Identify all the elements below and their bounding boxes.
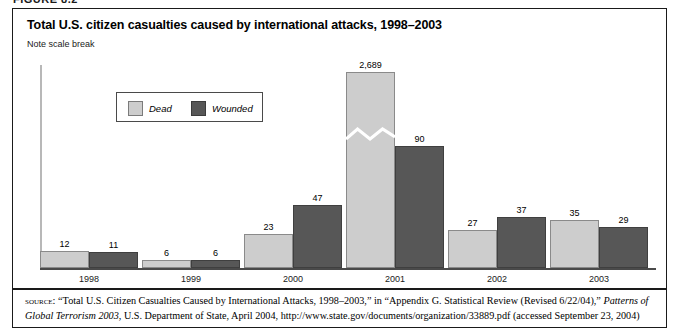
source-label: source: (25, 295, 56, 306)
bar-group-2001: 2,689 90 (346, 65, 444, 268)
source-italic-title-part1: Patterns of (603, 295, 648, 306)
x-axis-line (40, 268, 656, 270)
x-tick-2000: 2000 (244, 274, 342, 284)
bar-value-2003-dead: 35 (569, 208, 579, 218)
bar-value-2001-wounded: 90 (414, 134, 424, 144)
bar-2000-dead: 23 (244, 234, 293, 268)
bar-value-2000-dead: 23 (263, 222, 273, 232)
bar-1999-dead: 6 (142, 260, 191, 268)
bar-value-2001-dead: 2,689 (359, 60, 382, 70)
x-tick-2001: 2001 (346, 274, 444, 284)
bar-group-2002: 27 37 (448, 65, 546, 268)
bar-group-1999: 6 6 (142, 65, 240, 268)
bar-2000-wounded: 47 (293, 205, 342, 268)
bar-2002-wounded: 37 (497, 217, 546, 268)
x-tick-1999: 1999 (142, 274, 240, 284)
chart-plot-area: 12 11 1998 6 6 1999 23 47 2000 (13, 9, 668, 329)
x-tick-2003: 2003 (550, 274, 648, 284)
bar-2002-dead: 27 (448, 230, 497, 268)
figure-caption: FIGURE 8.2 (13, 0, 78, 5)
bar-value-2000-wounded: 47 (312, 193, 322, 203)
bar-value-1998-wounded: 11 (109, 240, 118, 250)
bar-2003-dead: 35 (550, 220, 599, 268)
bar-value-1999-dead: 6 (164, 248, 169, 258)
bar-2001-wounded: 90 (395, 146, 444, 268)
scale-break-icon (346, 126, 395, 144)
bar-value-1998-dead: 12 (59, 239, 69, 249)
bar-group-2003: 35 29 (550, 65, 648, 268)
x-tick-1998: 1998 (40, 274, 138, 284)
source-text-part2: , U.S. Department of State, April 2004, … (119, 310, 640, 321)
bar-group-1998: 12 11 (40, 65, 138, 268)
bar-value-2002-dead: 27 (467, 218, 477, 228)
bar-value-1999-wounded: 6 (213, 248, 218, 258)
figure-frame: Total U.S. citizen casualties caused by … (12, 8, 667, 328)
bar-1998-wounded: 11 (89, 252, 138, 268)
source-italic-title-part2: Global Terrorism 2003 (25, 310, 119, 321)
bar-1999-wounded: 6 (191, 260, 240, 268)
source-note: source: “Total U.S. Citizen Casualties C… (25, 294, 659, 324)
bar-2003-wounded: 29 (599, 227, 648, 268)
bar-group-2000: 23 47 (244, 65, 342, 268)
x-tick-2002: 2002 (448, 274, 546, 284)
bar-value-2003-wounded: 29 (618, 215, 628, 225)
bar-1998-dead: 12 (40, 251, 89, 268)
bar-2001-dead: 2,689 (346, 72, 395, 268)
bar-value-2002-wounded: 37 (516, 205, 526, 215)
source-divider (13, 288, 666, 290)
source-text-part1: “Total U.S. Citizen Casualties Caused by… (56, 295, 604, 306)
